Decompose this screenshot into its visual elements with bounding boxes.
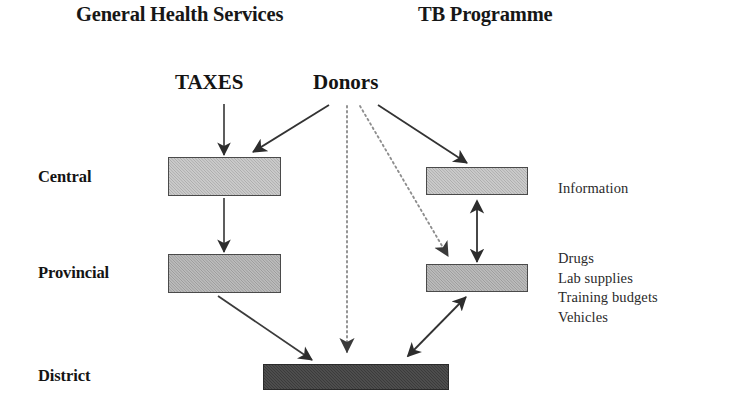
edge-ghs-provincial-to-district: [218, 296, 312, 360]
node-ghs-central[interactable]: [168, 157, 281, 196]
annotation-resource-list: Drugs Lab supplies Training budgets Vehi…: [558, 249, 658, 327]
edge-donors-to-ghs-central: [253, 105, 329, 152]
annotation-resource-vehicles: Vehicles: [558, 308, 658, 328]
annotation-resource-lab-supplies: Lab supplies: [558, 269, 658, 289]
annotation-information: Information: [558, 180, 628, 197]
node-ghs-provincial[interactable]: [168, 254, 281, 293]
connector-layer: [0, 0, 731, 403]
node-tb-provincial[interactable]: [426, 264, 528, 292]
annotation-resource-training-budgets: Training budgets: [558, 288, 658, 308]
edge-tb-provincial-to-district: [408, 297, 466, 356]
edge-donors-to-tb-central: [378, 105, 467, 163]
node-district-shared[interactable]: [263, 364, 449, 390]
diagram-canvas: General Health Services TB Programme TAX…: [0, 0, 731, 403]
annotation-resource-drugs: Drugs: [558, 249, 658, 269]
node-tb-central[interactable]: [426, 167, 528, 195]
